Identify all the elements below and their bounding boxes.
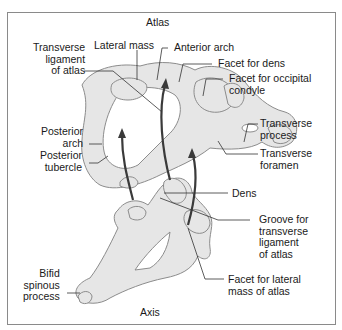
label-atlas: Atlas [146,17,169,29]
label-posterior-arch: Posterior arch [41,126,83,149]
label-axis: Axis [140,307,160,319]
label-groove-for-transverse-ligament: Groove for transverse ligament of atlas [259,214,309,260]
label-transverse-foramen: Transverse foramen [260,148,312,171]
axis-bone [76,178,212,304]
label-dens: Dens [232,188,257,200]
label-facet-for-dens: Facet for dens [218,58,285,70]
label-facet-for-lateral-mass: Facet for lateral mass of atlas [228,274,301,297]
label-posterior-tubercle: Posterior tubercle [40,150,82,173]
label-lateral-mass: Lateral mass [94,40,154,52]
label-transverse-process: Transverse process [260,118,312,141]
label-bifid-spinous-process: Bifid spinous process [23,268,60,303]
label-transverse-ligament: Transverse ligament of atlas [33,42,85,77]
label-anterior-arch: Anterior arch [174,42,234,54]
label-facet-for-occipital-condyle: Facet for occipital condyle [229,73,311,96]
